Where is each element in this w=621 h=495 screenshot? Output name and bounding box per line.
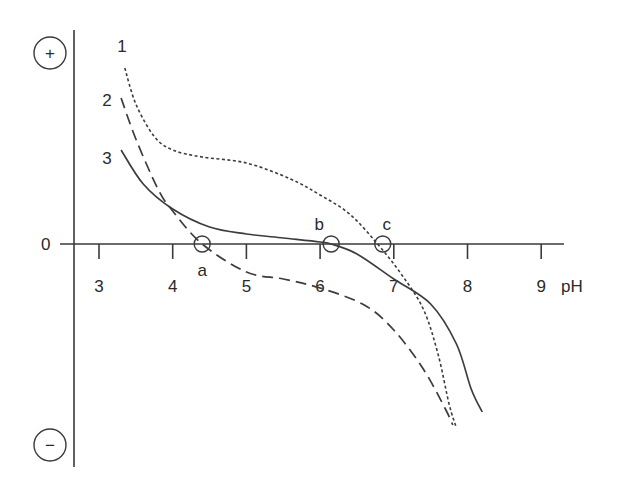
x-axis-label: pH bbox=[561, 277, 583, 296]
x-tick-label-4: 4 bbox=[168, 277, 177, 296]
x-tick-label-8: 8 bbox=[463, 277, 472, 296]
curve-2 bbox=[121, 98, 453, 425]
marker-label-b: b bbox=[314, 215, 323, 234]
svg-text:+: + bbox=[45, 44, 55, 63]
x-tick-label-3: 3 bbox=[94, 277, 103, 296]
titration-curve-chart: 3456789 0 pH + − 123 abc bbox=[0, 0, 621, 495]
curves bbox=[121, 68, 482, 428]
x-axis-tick-labels: 3456789 bbox=[94, 277, 546, 296]
curve-label-1: 1 bbox=[117, 37, 126, 56]
positive-charge-icon: + bbox=[34, 37, 66, 69]
curve-label-2: 2 bbox=[102, 91, 111, 110]
curve-1 bbox=[125, 68, 457, 428]
x-tick-label-9: 9 bbox=[536, 277, 545, 296]
negative-charge-icon: − bbox=[34, 429, 66, 461]
x-axis-ticks bbox=[99, 244, 541, 259]
x-tick-label-5: 5 bbox=[242, 277, 251, 296]
svg-text:−: − bbox=[45, 436, 55, 455]
marker-label-c: c bbox=[382, 215, 391, 234]
marker-label-a: a bbox=[197, 261, 207, 280]
curve-label-3: 3 bbox=[102, 149, 111, 168]
zero-crossing-markers: abc bbox=[194, 215, 391, 280]
y-zero-label: 0 bbox=[41, 235, 50, 254]
